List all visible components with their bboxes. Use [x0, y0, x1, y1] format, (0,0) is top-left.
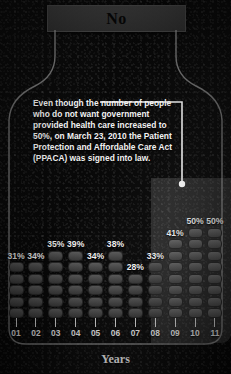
pill-segment: [188, 308, 203, 318]
axis-tick-label: 02: [28, 328, 44, 338]
pill-segment: [9, 274, 24, 284]
bar-value-label: 39%: [67, 239, 84, 249]
pill-segment: [9, 308, 24, 318]
bar-column: 31%: [8, 251, 24, 319]
bar-column: 38%: [107, 239, 123, 318]
axis-tick-label: 10: [187, 328, 203, 338]
bar-pill-stack: [28, 262, 43, 318]
pill-segment: [168, 251, 183, 261]
axis-tick-label: 03: [48, 328, 64, 338]
axis-tick-label: 08: [147, 328, 163, 338]
axis-tick: [48, 318, 64, 327]
bar-pill-stack: [9, 262, 24, 318]
axis-tick-label: 04: [68, 328, 84, 338]
bar-column: 33%: [147, 251, 163, 319]
pill-segment: [68, 274, 83, 284]
pill-segment: [168, 239, 183, 249]
axis-tick-label: 01: [8, 328, 24, 338]
pill-segment: [28, 285, 43, 295]
pill-segment: [88, 308, 103, 318]
page-title: No: [106, 10, 127, 28]
pill-segment: [28, 308, 43, 318]
pill-segment: [48, 274, 63, 284]
pill-segment: [88, 285, 103, 295]
axis-tick: [147, 318, 163, 327]
axis-title: Years: [0, 352, 231, 367]
pill-segment: [188, 251, 203, 261]
axis-tick: [207, 318, 223, 327]
pill-segment: [48, 285, 63, 295]
pill-segment: [108, 251, 123, 261]
bar-pill-stack: [128, 274, 143, 319]
pill-segment: [148, 285, 163, 295]
pill-segment: [168, 274, 183, 284]
pill-segment: [108, 308, 123, 318]
bar-column: 39%: [68, 239, 84, 318]
axis-label-group: 0102030405060708091011: [8, 328, 223, 338]
bar-value-label: 28%: [127, 262, 144, 272]
pill-segment: [188, 274, 203, 284]
bar-value-label: 34%: [27, 251, 44, 261]
pill-segment: [207, 308, 222, 318]
bar-pill-stack: [168, 239, 183, 318]
pill-segment: [108, 297, 123, 307]
pill-segment: [48, 308, 63, 318]
axis-tick-group: [8, 318, 223, 327]
pill-segment: [207, 285, 222, 295]
pill-segment: [168, 308, 183, 318]
pill-segment: [128, 285, 143, 295]
bar-pill-stack: [207, 228, 222, 319]
axis-tick-label: 07: [127, 328, 143, 338]
bar-value-label: 34%: [87, 251, 104, 261]
pill-segment: [128, 308, 143, 318]
pill-segment: [128, 274, 143, 284]
pill-segment: [207, 239, 222, 249]
bar-column: 50%: [207, 216, 223, 318]
pill-segment: [48, 262, 63, 272]
pill-segment: [48, 297, 63, 307]
bar-value-label: 50%: [206, 216, 223, 226]
bar-value-label: 35%: [47, 239, 64, 249]
pill-segment: [68, 285, 83, 295]
bar-value-label: 41%: [167, 228, 184, 238]
axis-tick: [8, 318, 24, 327]
pill-segment: [28, 297, 43, 307]
bar-value-label: 31%: [7, 251, 24, 261]
pill-segment: [148, 274, 163, 284]
bar-value-label: 38%: [107, 239, 124, 249]
axis-tick: [28, 318, 44, 327]
annotation-text: Even though the number of people who do …: [33, 98, 183, 165]
axis-tick: [127, 318, 143, 327]
pill-segment: [168, 297, 183, 307]
pill-segment: [68, 308, 83, 318]
pill-segment: [108, 274, 123, 284]
header-banner: No: [47, 5, 186, 32]
pill-segment: [188, 297, 203, 307]
pill-segment: [68, 251, 83, 261]
axis-tick: [107, 318, 123, 327]
axis-tick: [187, 318, 203, 327]
pill-segment: [9, 285, 24, 295]
pill-segment: [188, 285, 203, 295]
axis-tick-label: 11: [207, 328, 223, 338]
pill-segment: [207, 262, 222, 272]
pill-segment: [128, 297, 143, 307]
pill-segment: [188, 239, 203, 249]
bar-pill-stack: [48, 251, 63, 319]
axis-tick: [68, 318, 84, 327]
bar-column: 50%: [187, 216, 203, 318]
pill-segment: [207, 228, 222, 238]
pill-segment: [207, 297, 222, 307]
bar-column: 28%: [127, 262, 143, 318]
axis-tick-label: 06: [107, 328, 123, 338]
axis-tick: [167, 318, 183, 327]
bar-group: 31%34%35%39%34%38%28%33%41%50%50%: [8, 178, 223, 318]
pill-segment: [68, 297, 83, 307]
pill-segment: [28, 274, 43, 284]
bar-pill-stack: [188, 228, 203, 319]
pill-segment: [188, 262, 203, 272]
pill-segment: [88, 274, 103, 284]
bar-column: 34%: [88, 251, 104, 319]
pill-segment: [168, 262, 183, 272]
pill-segment: [207, 251, 222, 261]
